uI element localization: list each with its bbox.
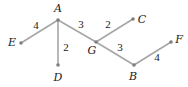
weighted-tree-diagram: 423234 AEDGCBF: [0, 0, 188, 87]
edge-weight-label: 3: [78, 18, 84, 30]
edge-weight-label: 3: [117, 41, 123, 53]
node-label: D: [53, 71, 63, 84]
node-label: F: [174, 33, 183, 46]
node-c-dot: [131, 17, 135, 21]
node-label: B: [128, 70, 137, 83]
edge-weight-label: 4: [154, 51, 160, 63]
nodes: AEDGCBF: [7, 2, 183, 84]
edge-g-b: [96, 42, 134, 65]
edge-a-e: [21, 20, 58, 43]
edge-a-g: [58, 20, 96, 42]
node-f-dot: [169, 40, 173, 44]
edge-g-c: [96, 19, 133, 42]
node-d-dot: [56, 63, 60, 67]
edge-b-f: [134, 42, 171, 65]
node-label: C: [138, 13, 147, 26]
node-label: E: [7, 36, 16, 49]
edge-weight-label: 4: [33, 19, 39, 31]
node-e-dot: [19, 41, 23, 45]
node-label: A: [53, 2, 62, 15]
node-label: G: [88, 44, 97, 57]
node-b-dot: [132, 63, 136, 67]
node-a-dot: [56, 18, 60, 22]
edge-weight-label: 2: [63, 41, 69, 53]
edge-weight-label: 2: [105, 18, 111, 30]
